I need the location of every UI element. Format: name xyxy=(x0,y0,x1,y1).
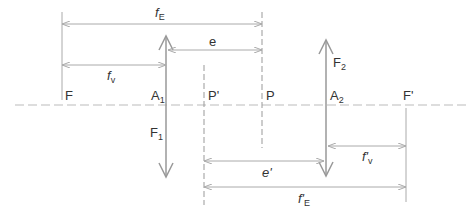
label-point-P: P xyxy=(266,89,275,102)
lens-1-icon xyxy=(159,36,173,177)
label-point-F: F xyxy=(65,89,73,102)
optical-diagram xyxy=(0,0,466,222)
label-lens-F2: F2 xyxy=(333,56,346,72)
label-point-A2: A2 xyxy=(330,89,344,105)
label-fE: fE xyxy=(155,6,165,22)
label-e: e xyxy=(209,35,216,48)
label-fv-prime: f'v xyxy=(362,150,373,166)
label-fE-prime: f'E xyxy=(298,192,310,208)
label-point-A1: A1 xyxy=(151,89,165,105)
label-point-P-prime: P' xyxy=(208,89,219,102)
label-point-F-prime: F' xyxy=(403,89,413,102)
label-lens-F1: F1 xyxy=(150,126,163,142)
label-fv: fv xyxy=(107,69,115,85)
label-e-prime: e' xyxy=(262,166,272,179)
lens-2-icon xyxy=(319,40,333,176)
